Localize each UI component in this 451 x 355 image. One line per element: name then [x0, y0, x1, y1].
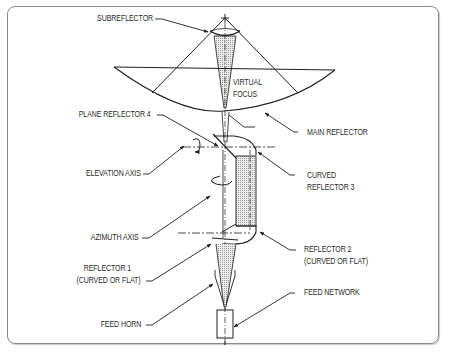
label-elevation-axis: ELEVATION AXIS — [86, 168, 141, 180]
label-feed-horn: FEED HORN — [100, 319, 141, 331]
leader-subreflector — [155, 19, 208, 32]
leader-curved-reflector-3 — [258, 152, 295, 175]
leader-main-reflector — [265, 113, 298, 132]
label-virtual-focus-line1: VIRTUAL — [233, 77, 262, 89]
label-subreflector: SUBREFLECTOR — [97, 13, 153, 25]
ray-left — [152, 18, 225, 93]
label-curved-reflector-3-line2: REFLECTOR 3 — [307, 182, 354, 194]
leader-plane-reflector-4 — [157, 115, 218, 146]
label-plane-reflector-4: PLANE REFLECTOR 4 — [79, 109, 151, 121]
antenna-beam-waveguide-diagram — [0, 0, 451, 355]
leader-elevation-axis — [143, 146, 184, 174]
azimuth-rotation-icon — [211, 176, 232, 185]
beam-tube — [236, 156, 256, 226]
label-feed-network: FEED NETWORK — [304, 287, 360, 299]
label-main-reflector: MAIN REFLECTOR — [307, 127, 368, 139]
label-reflector-2-line1: REFLECTOR 2 — [304, 244, 351, 256]
label-azimuth-axis: AZIMUTH AXIS — [91, 232, 139, 244]
label-virtual-focus-line2: FOCUS — [233, 89, 257, 101]
beam-cone-lower — [216, 244, 236, 307]
label-reflector-1-line1: REFLECTOR 1 — [84, 263, 131, 275]
leader-feed-horn — [146, 284, 213, 325]
label-curved-reflector-3-line1: CURVED — [307, 170, 336, 182]
elevation-rotation-icon — [193, 139, 200, 152]
leader-feed-network — [234, 293, 295, 327]
label-reflector-2-line2: (CURVED OR FLAT) — [304, 256, 368, 268]
leader-reflector-2 — [260, 232, 296, 250]
label-reflector-1-line2: (CURVED OR FLAT) — [77, 275, 141, 287]
leader-virtual-focus — [229, 115, 255, 127]
plane-reflector-4 — [213, 134, 236, 158]
leader-reflector-1 — [146, 244, 211, 281]
leader-azimuth-axis — [142, 196, 210, 238]
